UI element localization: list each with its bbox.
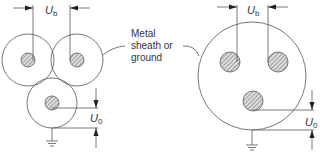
u0-label-right: U0	[305, 116, 318, 130]
sheath-label-line1: Metal	[131, 28, 155, 39]
ub-label-left: Ub	[45, 4, 58, 18]
u0-label-left: U0	[90, 112, 103, 126]
conductor-right	[70, 53, 84, 67]
conductor-bottom	[243, 91, 263, 111]
ub-label-right: Ub	[247, 4, 260, 18]
sheath-label-line3: ground	[131, 52, 162, 63]
cable-voltage-diagram: Ub U0 Ub U0 Metal sheath or ground	[0, 0, 320, 158]
sheath-label-line2: sheath or	[131, 40, 173, 51]
right-diagram	[183, 5, 315, 151]
left-diagram	[2, 5, 125, 148]
common-sheath-circle	[198, 22, 306, 130]
conductor-top-right	[268, 52, 288, 72]
